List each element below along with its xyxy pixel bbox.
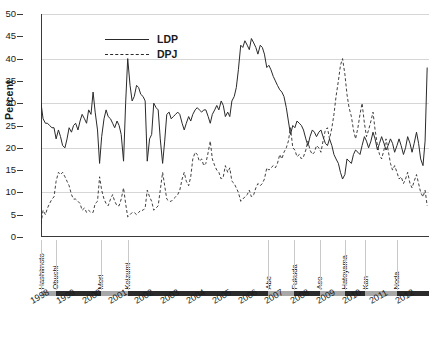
- y-tick-label-40: 40: [0, 54, 16, 64]
- y-tick-mark-0: [17, 237, 23, 238]
- y-tick-mark-5: [17, 215, 23, 216]
- chart-figure: Percent 05101520253035404550 LDP DPJ Has…: [0, 0, 441, 337]
- year-label-1998: 1998: [29, 288, 51, 306]
- y-tick-mark-50: [17, 14, 23, 15]
- pm-name-labels: HashimotoObuchiMoriKoizumiAbeFukudaAsoHa…: [41, 240, 429, 290]
- y-tick-label-45: 45: [0, 31, 16, 41]
- pm-divider-fukuda: [294, 240, 295, 290]
- y-tick-mark-40: [17, 59, 23, 60]
- y-tick-label-5: 5: [0, 210, 16, 220]
- y-tick-label-35: 35: [0, 76, 16, 86]
- pm-divider-obuchi: [56, 240, 57, 290]
- y-tick-label-20: 20: [0, 143, 16, 153]
- y-tick-mark-10: [17, 192, 23, 193]
- pm-divider-kan: [365, 240, 366, 290]
- x-axis-year-labels: 1998199920002001200220032004200520062007…: [0, 298, 441, 337]
- pm-divider-koizumi: [128, 240, 129, 290]
- y-tick-mark-25: [17, 126, 23, 127]
- y-tick-label-0: 0: [0, 232, 16, 242]
- pm-divider-mori: [101, 240, 102, 290]
- series-line-ldp: [41, 39, 427, 179]
- y-tick-mark-15: [17, 170, 23, 171]
- y-tick-label-25: 25: [0, 121, 16, 131]
- pm-divider-hashimoto: [41, 240, 42, 290]
- y-tick-label-50: 50: [0, 9, 16, 19]
- pm-divider-hatoyama: [345, 240, 346, 290]
- y-tick-mark-35: [17, 81, 23, 82]
- y-tick-mark-20: [17, 148, 23, 149]
- pm-divider-noda: [397, 240, 398, 290]
- series-line-dpj: [41, 59, 427, 224]
- pm-divider-aso: [320, 240, 321, 290]
- y-tick-mark-30: [17, 103, 23, 104]
- pm-divider-abe: [268, 240, 269, 290]
- y-tick-mark-45: [17, 36, 23, 37]
- y-tick-label-10: 10: [0, 187, 16, 197]
- y-tick-label-30: 30: [0, 98, 16, 108]
- series-lines: [41, 14, 429, 237]
- y-tick-label-15: 15: [0, 165, 16, 175]
- y-axis: Percent 05101520253035404550: [0, 0, 41, 237]
